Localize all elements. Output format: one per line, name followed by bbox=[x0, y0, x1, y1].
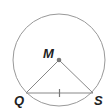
label-m: M bbox=[43, 47, 54, 60]
label-s: S bbox=[94, 94, 103, 107]
label-q: Q bbox=[14, 94, 24, 107]
circle-diagram: M Q S bbox=[0, 0, 112, 110]
center-point-m bbox=[57, 58, 62, 63]
radius-mq bbox=[26, 60, 59, 93]
radius-ms bbox=[59, 60, 93, 93]
